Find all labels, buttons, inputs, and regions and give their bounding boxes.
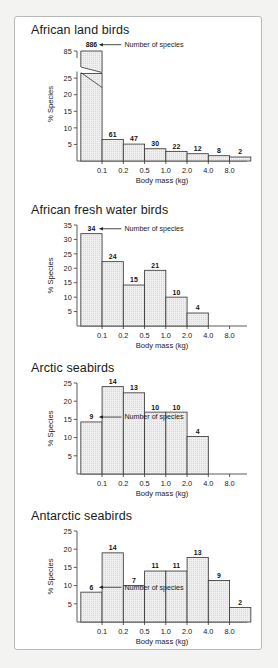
- annotation-arrowhead-icon: [99, 415, 102, 419]
- bar-value-label: 10: [151, 404, 159, 411]
- x-tick-label: 8.0: [224, 166, 234, 175]
- bar-6: [187, 558, 208, 622]
- bar-value-label: 4: [196, 428, 200, 435]
- chart-svg-1: 51015202585886614730221282Number of spec…: [15, 37, 263, 197]
- x-axis-title: Body mass (kg): [136, 637, 189, 646]
- y-tick-label: 25: [64, 250, 72, 259]
- x-axis-title: Body mass (kg): [136, 176, 189, 185]
- bar-5: [166, 297, 187, 326]
- x-tick-label: 0.2: [118, 331, 128, 340]
- bar-value-label: 34: [88, 225, 96, 232]
- bar-value-label: 47: [130, 135, 138, 142]
- x-tick-label: 2.0: [182, 331, 192, 340]
- bar-4: [145, 412, 166, 474]
- x-axis-title: Body mass (kg): [136, 341, 189, 350]
- chart-title-4: Antarctic seabirds: [31, 509, 132, 523]
- x-tick-label: 4.0: [203, 331, 213, 340]
- y-tick-label: 10: [64, 124, 72, 133]
- y-tick-label: 20: [64, 90, 72, 99]
- annotation-label: Number of species: [124, 41, 184, 49]
- bar-value-label: 10: [173, 289, 181, 296]
- plot-area-4: 510152025614711111392Number of species0.…: [15, 523, 263, 658]
- annotation-arrowhead-icon: [99, 227, 102, 231]
- x-tick-label: 4.0: [203, 166, 213, 175]
- x-tick-label: 0.5: [139, 166, 149, 175]
- bar-6: [187, 154, 208, 161]
- y-tick-label: 20: [64, 545, 72, 554]
- bar-2: [102, 387, 123, 474]
- bar-value-label: 6: [90, 584, 94, 591]
- x-tick-label: 8.0: [224, 627, 234, 636]
- annotation-label: Number of species: [124, 225, 184, 233]
- y-tick-label: 15: [64, 278, 72, 287]
- bar-6: [187, 313, 208, 326]
- x-tick-label: 8.0: [224, 479, 234, 488]
- x-tick-label: 8.0: [224, 331, 234, 340]
- bar-value-label: 24: [109, 253, 117, 260]
- bar-value-label: 21: [151, 262, 159, 269]
- x-tick-label: 0.1: [97, 627, 107, 636]
- y-tick-label: 5: [68, 140, 72, 149]
- bar-7: [208, 581, 229, 622]
- y-tick-label: 5: [68, 452, 72, 461]
- y-tick-label: 10: [64, 581, 72, 590]
- annotation-arrowhead-icon: [99, 585, 102, 589]
- bar-value-label: 2: [238, 599, 242, 606]
- bar-5: [166, 412, 187, 474]
- x-tick-label: 0.1: [97, 166, 107, 175]
- bar-8: [230, 607, 251, 622]
- bar-value-label: 14: [109, 378, 117, 385]
- bar-value-label: 2: [238, 148, 242, 155]
- x-tick-label: 1.0: [161, 479, 171, 488]
- y-tick-label: 10: [64, 293, 72, 302]
- y-tick-label: 5: [68, 600, 72, 609]
- y-tick-label: 35: [64, 221, 72, 230]
- bar-1: [81, 592, 102, 622]
- plot-area-2: 510152025303534241521104Number of specie…: [15, 217, 263, 362]
- bar-6: [187, 437, 208, 474]
- bar-value-label: 12: [194, 145, 202, 152]
- chart-title-3: Arctic seabirds: [31, 361, 114, 375]
- annotation-label: Number of species: [124, 584, 184, 592]
- x-tick-label: 4.0: [203, 479, 213, 488]
- y-tick-label: 15: [64, 415, 72, 424]
- bar-8: [230, 157, 251, 161]
- x-tick-label: 0.2: [118, 627, 128, 636]
- bar-value-label: 11: [173, 562, 180, 569]
- bar-value-label: 61: [109, 131, 117, 138]
- x-tick-label: 0.5: [139, 479, 149, 488]
- x-tick-label: 2.0: [182, 479, 192, 488]
- x-tick-label: 0.5: [139, 331, 149, 340]
- bar-4: [145, 270, 166, 326]
- bar-value-label: 886: [86, 41, 98, 48]
- annotation-label: Number of species: [124, 413, 184, 421]
- bar-3: [123, 393, 144, 474]
- x-tick-label: 1.0: [161, 627, 171, 636]
- bar-5: [166, 571, 187, 622]
- bar-1: [81, 422, 102, 474]
- figure-frame: African land birds 510152025858866147302…: [14, 16, 262, 650]
- chart-svg-3: 5101520259141310104Number of species0.10…: [15, 375, 263, 510]
- y-tick-label: 15: [64, 107, 72, 116]
- y-axis-title: % Species: [46, 410, 55, 446]
- figure-page: African land birds 510152025858866147302…: [0, 0, 278, 668]
- bar-5: [166, 151, 187, 161]
- bar-2: [102, 139, 123, 161]
- y-tick-label: 25: [64, 527, 72, 536]
- y-tick-label: 10: [64, 433, 72, 442]
- x-tick-label: 4.0: [203, 627, 213, 636]
- x-tick-label: 1.0: [161, 166, 171, 175]
- x-tick-label: 1.0: [161, 331, 171, 340]
- y-tick-label: 25: [64, 74, 72, 83]
- bar-3: [123, 144, 144, 161]
- bar-1: [81, 74, 102, 161]
- bar-7: [208, 156, 229, 161]
- bar-value-label: 14: [109, 544, 117, 551]
- chart-title-1: African land birds: [31, 23, 129, 37]
- y-tick-label: 25: [64, 379, 72, 388]
- y-tick-label: 30: [64, 235, 72, 244]
- x-tick-label: 0.2: [118, 479, 128, 488]
- bar-value-label: 13: [130, 384, 138, 391]
- chart-svg-2: 510152025303534241521104Number of specie…: [15, 217, 263, 362]
- plot-area-1: 51015202585886614730221282Number of spec…: [15, 37, 263, 197]
